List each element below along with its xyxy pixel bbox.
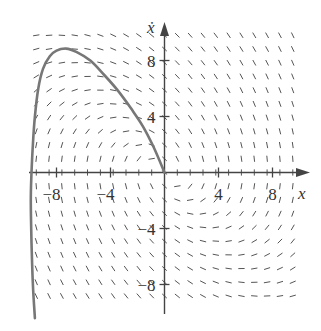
slope-segment: [226, 226, 232, 229]
slope-segment: [85, 116, 90, 120]
slope-segment: [188, 281, 193, 285]
slope-segment: [73, 293, 76, 298]
slope-segment: [124, 280, 128, 285]
slope-segment: [290, 267, 295, 270]
slope-segment: [266, 101, 268, 107]
slope-segment: [265, 225, 269, 230]
slope-segment: [238, 254, 244, 255]
slope-segment: [266, 128, 268, 134]
slope-segment: [150, 253, 154, 258]
y-tick-label: 8: [147, 52, 156, 71]
slope-segment: [200, 281, 206, 284]
slope-segment: [227, 101, 230, 107]
slope-segment: [213, 227, 219, 228]
slope-segment: [187, 199, 193, 200]
slope-segment: [86, 280, 89, 285]
phase-plot: −8−448 84−4−8 x ẋ: [0, 0, 321, 331]
slope-segment: [47, 88, 52, 92]
slope-segment: [239, 226, 244, 230]
slope-segment: [149, 130, 155, 133]
x-axis: [29, 168, 310, 177]
slope-segment: [227, 88, 230, 93]
slope-segment: [97, 34, 103, 36]
slope-segment: [34, 75, 39, 78]
x-axis-arrow-icon: [296, 168, 310, 177]
slope-segment: [240, 74, 243, 80]
slope-segment: [240, 33, 243, 38]
slope-segment: [149, 102, 154, 106]
slope-segment: [292, 115, 294, 121]
slope-segment: [188, 184, 192, 189]
slope-segment: [241, 183, 242, 189]
slope-segment: [200, 227, 206, 228]
slope-segment: [61, 266, 64, 272]
slope-segment: [251, 254, 257, 256]
slope-segment: [150, 211, 154, 216]
slope-segment: [291, 239, 295, 244]
slope-segment: [279, 60, 282, 66]
slope-segment: [35, 128, 37, 134]
slope-segment: [137, 239, 141, 244]
slope-segment: [72, 35, 78, 36]
slope-segment: [33, 35, 39, 36]
slope-segment: [200, 254, 206, 256]
slope-segment: [253, 197, 255, 203]
slope-segment: [241, 156, 242, 162]
slope-segment: [110, 117, 116, 118]
slope-segment: [266, 87, 268, 93]
slope-segment: [125, 183, 127, 189]
slope-segment: [84, 48, 90, 49]
slope-segment: [291, 46, 294, 52]
slope-segment: [228, 128, 230, 134]
slope-segment: [188, 74, 192, 79]
slope-segment: [74, 211, 76, 217]
slope-segment: [188, 47, 192, 52]
slope-segment: [279, 33, 282, 38]
slope-segment: [99, 142, 102, 148]
slope-segment: [252, 240, 257, 243]
slope-segment: [188, 33, 192, 38]
slope-segment: [175, 226, 180, 229]
slope-segment: [112, 225, 115, 231]
x-axis-label: x: [297, 184, 306, 203]
slope-segment: [48, 142, 50, 148]
slope-segment: [278, 225, 281, 230]
slope-segment: [36, 156, 37, 162]
slope-segment: [226, 212, 231, 216]
slope-segment: [202, 129, 205, 135]
slope-segment: [136, 89, 142, 92]
slope-segment: [138, 183, 140, 189]
slope-segment: [60, 293, 63, 299]
slope-segment: [124, 294, 128, 299]
slope-segment: [290, 281, 296, 284]
y-axis-arrow-icon: [160, 22, 169, 36]
slope-segment: [48, 238, 50, 244]
slope-segment: [125, 156, 128, 162]
slope-segment: [72, 76, 78, 77]
slope-segment: [227, 33, 231, 38]
slope-segment: [86, 225, 88, 231]
slope-segment: [175, 74, 179, 79]
slope-segment: [86, 252, 89, 258]
slope-segment: [99, 211, 101, 217]
slope-segment: [137, 156, 141, 161]
slope-segment: [279, 211, 282, 217]
slope-segment: [136, 61, 141, 65]
slope-segment: [59, 89, 65, 92]
slope-segment: [84, 62, 90, 63]
slope-segment: [123, 34, 129, 37]
slope-segment: [215, 156, 216, 162]
slope-segment: [213, 281, 219, 283]
slope-segment: [253, 115, 255, 121]
slope-segment: [86, 293, 89, 298]
slope-segment: [49, 156, 50, 162]
slope-segment: [214, 74, 217, 79]
slope-segment: [61, 142, 63, 148]
slope-segment: [175, 280, 180, 284]
slope-segment: [188, 294, 193, 298]
slope-segment: [292, 142, 293, 148]
slope-segment: [215, 129, 217, 135]
slope-segment: [277, 296, 283, 297]
slope-segment: [226, 282, 232, 284]
slope-segment: [264, 268, 270, 270]
